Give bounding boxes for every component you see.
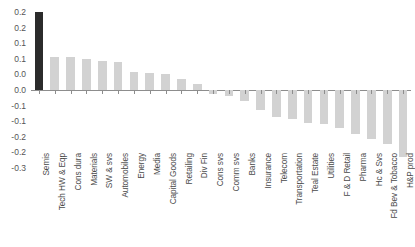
x-category-label: Tech HW & Eqp xyxy=(58,153,66,210)
x-category-label: Div Fin xyxy=(200,153,208,178)
x-category-label: Fd Bev & Tobacco xyxy=(390,153,398,219)
y-tick-label: -0.1 xyxy=(11,101,26,110)
x-tick-mark xyxy=(371,90,372,94)
y-tick-label: -0.2 xyxy=(11,133,26,142)
x-category-label: Cons dura xyxy=(74,153,82,190)
bar-chart-figure: 0.20.20.10.10.00.0-0.1-0.1-0.2-0.2-0.3 S… xyxy=(0,0,415,247)
x-tick-mark xyxy=(403,90,404,94)
x-tick-mark xyxy=(39,90,40,94)
x-axis: SemisTech HW & EqpCons duraMaterialsSW &… xyxy=(31,153,415,247)
x-category-label: Retailing xyxy=(185,153,193,184)
bar[interactable] xyxy=(177,79,186,90)
y-tick-label: 0.0 xyxy=(14,70,26,79)
x-category-label: Banks xyxy=(248,153,256,176)
x-category-label: Teal Estate xyxy=(311,153,319,193)
bar[interactable] xyxy=(50,57,59,90)
x-tick-mark xyxy=(86,90,87,94)
plot-area xyxy=(31,12,411,152)
bar[interactable] xyxy=(130,72,139,90)
x-category-label: SW & svs xyxy=(105,153,113,188)
bar[interactable] xyxy=(320,90,329,124)
x-tick-mark xyxy=(118,90,119,94)
bar[interactable] xyxy=(35,12,44,90)
x-category-label: Insurance xyxy=(264,153,272,189)
bar[interactable] xyxy=(351,90,360,134)
x-category-label: H&P prod xyxy=(406,153,414,188)
bar[interactable] xyxy=(399,90,408,157)
x-category-label: Media xyxy=(153,153,161,175)
x-tick-mark xyxy=(55,90,56,94)
bar[interactable] xyxy=(114,62,123,90)
x-category-label: F & D Retail xyxy=(343,153,351,197)
y-tick-label: -0.1 xyxy=(11,117,26,126)
x-tick-mark xyxy=(229,90,230,94)
x-tick-mark xyxy=(308,90,309,94)
bar[interactable] xyxy=(145,73,154,90)
y-tick-label: 0.1 xyxy=(14,39,26,48)
y-tick-label: 0.2 xyxy=(14,8,26,17)
x-category-label: Energy xyxy=(137,153,145,179)
x-tick-mark xyxy=(213,90,214,94)
bar[interactable] xyxy=(335,90,344,128)
x-tick-mark xyxy=(324,90,325,94)
bar[interactable] xyxy=(66,57,75,90)
x-tick-mark xyxy=(387,90,388,94)
x-category-label: Semis xyxy=(42,153,50,176)
bar[interactable] xyxy=(304,90,313,123)
y-tick-label: -0.3 xyxy=(11,164,26,173)
x-category-label: Cons svs xyxy=(216,153,224,186)
bar[interactable] xyxy=(367,90,376,139)
bar[interactable] xyxy=(161,74,170,90)
x-tick-mark xyxy=(292,90,293,94)
x-category-label: Automobiles xyxy=(121,153,129,198)
y-tick-label: -0.2 xyxy=(11,148,26,157)
x-category-label: Utilities xyxy=(327,153,335,179)
x-category-label: Comm svs xyxy=(232,153,240,191)
bar[interactable] xyxy=(82,59,91,90)
y-axis: 0.20.20.10.10.00.0-0.1-0.1-0.2-0.2-0.3 xyxy=(0,0,29,247)
x-category-label: Telecom xyxy=(280,153,288,183)
y-tick-label: 0.1 xyxy=(14,55,26,64)
bar[interactable] xyxy=(98,61,107,90)
x-tick-mark xyxy=(134,90,135,94)
x-tick-mark xyxy=(261,90,262,94)
bar[interactable] xyxy=(383,90,392,144)
bar[interactable] xyxy=(288,90,297,119)
x-tick-mark xyxy=(356,90,357,94)
x-tick-mark xyxy=(181,90,182,94)
x-tick-mark xyxy=(166,90,167,94)
x-tick-mark xyxy=(276,90,277,94)
x-tick-mark xyxy=(71,90,72,94)
x-tick-mark xyxy=(150,90,151,94)
x-category-label: Pharma xyxy=(359,153,367,181)
y-tick-label: 0.0 xyxy=(14,86,26,95)
x-category-label: Transportation xyxy=(295,153,303,205)
x-category-label: Capital Goods xyxy=(169,153,177,204)
x-tick-mark xyxy=(340,90,341,94)
x-tick-mark xyxy=(197,90,198,94)
x-category-label: Hc & Svs xyxy=(375,153,383,186)
x-category-label: Materials xyxy=(90,153,98,186)
x-tick-mark xyxy=(245,90,246,94)
y-tick-label: 0.2 xyxy=(14,23,26,32)
bar[interactable] xyxy=(272,90,281,117)
x-tick-mark xyxy=(102,90,103,94)
